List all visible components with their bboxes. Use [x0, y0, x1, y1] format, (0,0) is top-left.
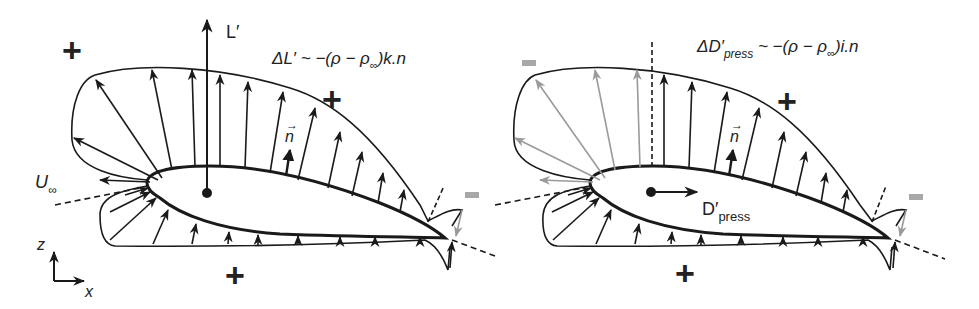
minus-sign-upper-left: [522, 60, 536, 66]
normal-vector-arrow-glyph: →: [731, 118, 743, 132]
upper-surface-negative-arrows: [515, 70, 640, 182]
lift-panel: L′ n → ΔL′ ~ −(ρ − ρ∞)k.n U∞ + + + z x: [35, 20, 495, 300]
plus-sign-upper-surface: +: [777, 82, 797, 120]
pressure-distribution-diagram: L′ n → ΔL′ ~ −(ρ − ρ∞)k.n U∞ + + + z x: [0, 0, 979, 309]
trailing-freestream-line: [452, 240, 495, 256]
freestream-direction-line: [55, 188, 140, 205]
plus-sign-lower-surface: +: [225, 256, 245, 294]
drag-panel: D′press n → ΔD′press ~ −(ρ − ρ∞)i.n + +: [495, 37, 945, 292]
normal-vector: [729, 150, 733, 176]
lift-label: L′: [226, 22, 240, 42]
minus-sign-trailing-edge: [909, 194, 923, 200]
freestream-label: U∞: [35, 172, 57, 197]
airfoil: [590, 166, 888, 238]
drag-formula: ΔD′press ~ −(ρ − ρ∞)i.n: [696, 37, 859, 61]
minus-sign-trailing-edge: [465, 192, 479, 198]
x-axis-label: x: [84, 283, 94, 300]
trailing-freestream-line: [895, 240, 945, 259]
lift-formula: ΔL′ ~ −(ρ − ρ∞)k.n: [271, 49, 406, 71]
plus-sign-upper-surface: +: [322, 80, 342, 118]
plus-sign-upper-left: +: [62, 31, 82, 69]
center-of-pressure-dot: [202, 188, 212, 198]
z-axis-label: z: [36, 236, 45, 253]
normal-vector: [286, 150, 290, 176]
coordinate-axes: z x: [36, 236, 94, 300]
normal-vector-arrow-glyph: →: [286, 118, 298, 132]
plus-sign-lower-surface: +: [675, 254, 695, 292]
